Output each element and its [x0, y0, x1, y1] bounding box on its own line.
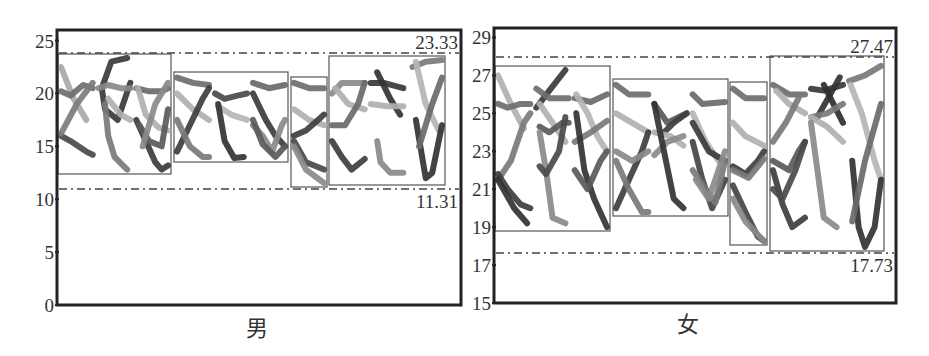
y-tick-label: 15 — [35, 136, 54, 157]
x-axis-label-male: 男 — [246, 310, 268, 342]
data-curve — [99, 85, 131, 88]
y-tick-label: 29 — [472, 27, 491, 48]
chart-male: 23.3311.310510152025 — [35, 30, 461, 316]
data-curve — [332, 141, 365, 170]
reference-label-upper: 27.47 — [850, 36, 893, 57]
data-curve — [177, 78, 209, 85]
plot-frame — [57, 30, 461, 305]
y-tick-label: 20 — [35, 83, 54, 104]
reference-label-lower: 11.31 — [416, 191, 458, 212]
data-curve — [733, 89, 764, 99]
y-tick-label: 25 — [472, 103, 491, 124]
data-curve — [616, 151, 648, 161]
data-curve — [849, 66, 881, 81]
chart-female: 27.4717.731517192123252729 — [472, 27, 896, 314]
data-curve — [616, 113, 648, 132]
data-curve — [616, 85, 648, 95]
y-tick-label: 10 — [35, 189, 54, 210]
reference-label-lower: 17.73 — [850, 255, 893, 276]
data-curve — [693, 94, 725, 104]
data-curve — [294, 83, 324, 88]
y-tick-label: 23 — [472, 141, 491, 162]
y-tick-label: 15 — [472, 293, 491, 314]
data-curve — [811, 123, 837, 227]
data-curve — [371, 104, 404, 106]
data-curve — [215, 94, 247, 99]
chart-canvas: 23.3311.310510152025 27.4717.73151719212… — [0, 0, 929, 356]
y-tick-label: 25 — [35, 31, 54, 52]
data-curve — [253, 83, 285, 88]
y-tick-label: 17 — [472, 255, 491, 276]
data-curve — [377, 141, 403, 173]
y-tick-label: 5 — [45, 242, 55, 263]
data-curve — [61, 136, 93, 155]
y-tick-label: 27 — [472, 65, 491, 86]
data-curve — [498, 180, 527, 224]
data-curve — [498, 113, 530, 179]
y-tick-label: 21 — [472, 179, 491, 200]
data-curve — [733, 123, 764, 146]
data-curve — [498, 104, 530, 108]
y-tick-label: 0 — [45, 295, 55, 316]
reference-label-upper: 23.33 — [415, 32, 458, 53]
x-axis-label-female: 女 — [677, 306, 699, 338]
y-tick-label: 19 — [472, 217, 491, 238]
